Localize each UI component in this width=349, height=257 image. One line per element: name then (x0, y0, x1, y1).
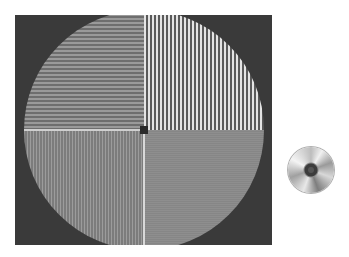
center-marker (140, 126, 148, 134)
quadrant-divider-vertical (143, 130, 145, 245)
quadrant-top-left-horizontal-grating (24, 15, 144, 130)
quadrant-divider-horizontal (24, 129, 144, 131)
grating-disk (24, 15, 264, 245)
cd-hole (308, 167, 314, 173)
quadrant-top-right-vertical-grating (144, 15, 264, 130)
quadrant-bottom-right-fine-grating (144, 130, 264, 245)
test-pattern-panel (15, 15, 272, 245)
quadrant-bottom-left-fine-vertical-grating (24, 130, 144, 245)
cd-disc-icon (288, 147, 334, 193)
